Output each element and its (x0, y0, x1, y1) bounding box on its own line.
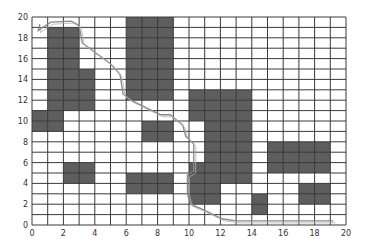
x-tick-label: 14 (247, 229, 257, 238)
y-tick-label: 18 (18, 34, 28, 43)
y-tick-label: 8 (23, 138, 28, 147)
y-tick-label: 12 (18, 96, 28, 105)
y-tick-label: 6 (23, 159, 28, 168)
y-tick-label: 16 (18, 55, 28, 64)
x-tick-label: 20 (341, 229, 351, 238)
x-tick-label: 6 (124, 229, 129, 238)
y-tick-label: 2 (23, 200, 28, 209)
x-tick-label: 2 (61, 229, 66, 238)
y-tick-label: 0 (23, 221, 28, 230)
x-tick-label: 8 (155, 229, 160, 238)
y-tick-label: 10 (18, 117, 28, 126)
y-tick-label: 14 (18, 75, 28, 84)
x-tick-label: 4 (92, 229, 97, 238)
y-tick-label: 4 (23, 179, 28, 188)
x-tick-label: 12 (215, 229, 225, 238)
grid-lines (32, 17, 346, 225)
grid-map-chart: 02468101214161820 02468101214161820 (0, 0, 375, 245)
x-tick-label: 16 (278, 229, 288, 238)
x-tick-label: 0 (29, 229, 34, 238)
x-tick-label: 10 (184, 229, 194, 238)
x-tick-label: 18 (310, 229, 320, 238)
y-tick-label: 20 (18, 13, 28, 22)
